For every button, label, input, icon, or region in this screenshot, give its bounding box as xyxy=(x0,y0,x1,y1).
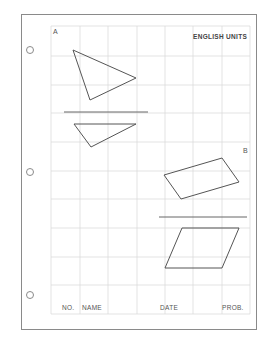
grid xyxy=(51,26,250,314)
title-block-problem-label: PROB. xyxy=(222,305,244,312)
triangle-a-top-view xyxy=(73,50,136,100)
units-label: ENGLISH UNITS xyxy=(193,34,247,41)
title-block-name-label: NAME xyxy=(82,305,102,312)
triangle-a-front-view xyxy=(74,124,136,147)
problem-label-a: A xyxy=(53,28,58,35)
parallelogram-b-front-view xyxy=(165,228,239,268)
title-block-number-label: NO. xyxy=(62,305,74,312)
drawing-area xyxy=(0,0,274,342)
problem-label-b: B xyxy=(243,147,248,154)
title-block-date-label: DATE xyxy=(160,305,178,312)
parallelogram-b-top-view xyxy=(164,158,239,199)
